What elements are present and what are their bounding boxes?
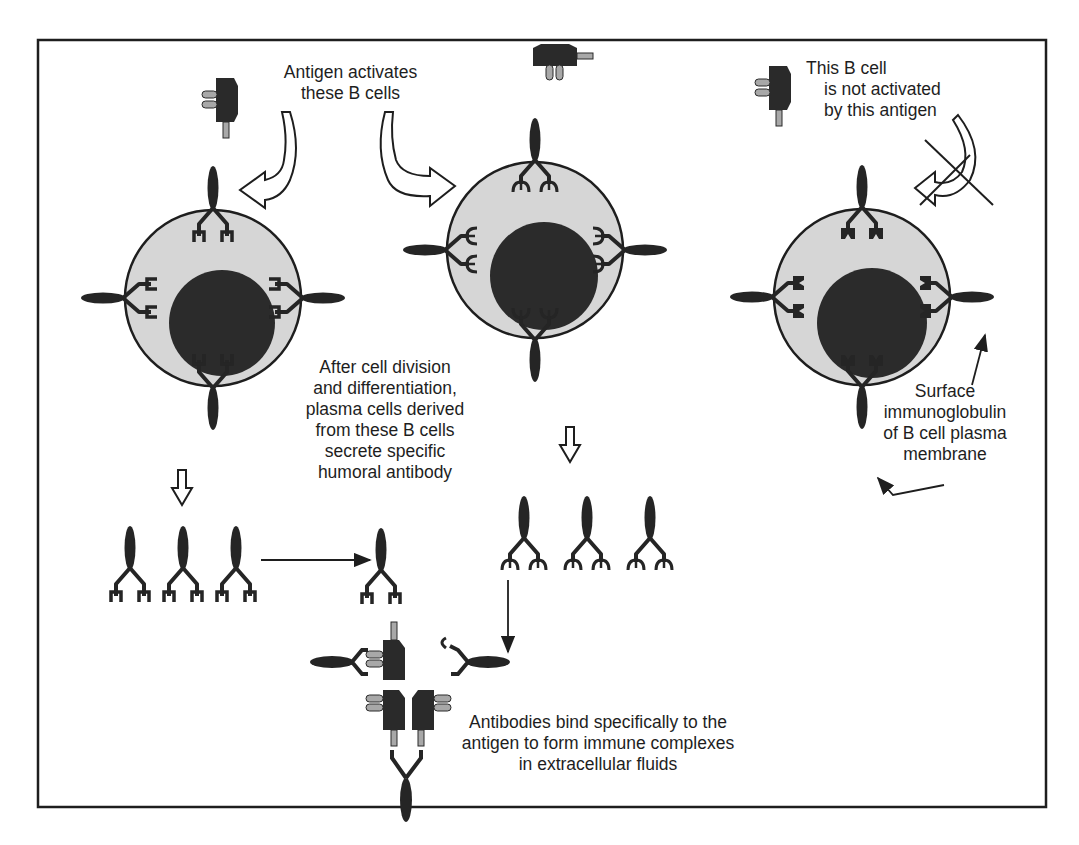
label-line: secrete specific xyxy=(295,441,475,462)
label-line: of B cell plasma xyxy=(870,423,1020,444)
label-immune-complexes: Antibodies bind specifically to the anti… xyxy=(448,712,748,775)
antigen-icon xyxy=(755,66,791,126)
label-line: from these B cells xyxy=(295,420,475,441)
label-line: membrane xyxy=(870,444,1020,465)
antibody-icon xyxy=(565,496,609,570)
label-line: is not activated xyxy=(806,79,941,100)
antibody-icon xyxy=(164,526,202,602)
label-line: humoral antibody xyxy=(295,462,475,483)
blocked-arrow-icon xyxy=(915,115,993,205)
diagram-stage: Antigen activates these B cells This B c… xyxy=(0,0,1079,845)
label-line: This B cell xyxy=(806,58,941,79)
b-cell-activated-2 xyxy=(403,118,667,382)
label-line: these B cells xyxy=(268,83,433,104)
antibody-icon xyxy=(111,526,149,602)
label-surface-immunoglobulin: Surface immunoglobulin of B cell plasma … xyxy=(870,381,1020,465)
down-arrow-icon xyxy=(560,427,580,462)
antibody-icon xyxy=(502,496,546,570)
antibody-icon xyxy=(628,496,672,570)
label-line: and differentiation, xyxy=(295,378,475,399)
antigen-icon xyxy=(202,78,238,138)
antigen-icon xyxy=(533,44,593,80)
pointer-arrow-icon xyxy=(878,478,944,495)
label-line: Antibodies bind specifically to the xyxy=(448,712,748,733)
pointer-arrow-icon xyxy=(972,335,985,385)
label-line: by this antigen xyxy=(806,100,941,121)
label-line: plasma cells derived xyxy=(295,399,475,420)
down-arrow-icon xyxy=(172,470,192,505)
label-not-activated: This B cell is not activated by this ant… xyxy=(806,58,941,121)
label-line: After cell division xyxy=(295,357,475,378)
curved-arrow-left-icon xyxy=(240,112,296,208)
label-after-division: After cell division and differentiation,… xyxy=(295,357,475,483)
label-line: Antigen activates xyxy=(268,62,433,83)
label-line: Surface xyxy=(870,381,1020,402)
label-line: in extracellular fluids xyxy=(448,754,748,775)
antibody-icon xyxy=(217,526,255,602)
curved-arrow-right-icon xyxy=(381,112,455,206)
label-line: immunoglobulin xyxy=(870,402,1020,423)
immune-complex xyxy=(310,528,510,822)
label-antigen-activates: Antigen activates these B cells xyxy=(268,62,433,104)
label-line: antigen to form immune complexes xyxy=(448,733,748,754)
